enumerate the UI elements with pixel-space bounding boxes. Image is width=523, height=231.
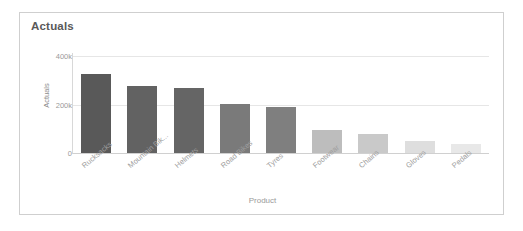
y-axis-ticks: 400k 200k 0 (28, 13, 72, 216)
y-tick-label-400k: 400k (36, 52, 72, 61)
plot-area: Actuals 400k 200k 0 RucksacksMountain Bi… (20, 13, 505, 216)
x-tick-label: Footwear (311, 143, 341, 170)
x-tick-label: Tyres (265, 151, 285, 170)
x-labels-layer: RucksacksMountain Bik...HelmetsRoad Bike… (73, 13, 489, 216)
x-axis-title: Product (20, 196, 505, 205)
x-tick-label: Chains (358, 148, 382, 170)
x-tick-label: Rucksacks (80, 140, 114, 170)
x-tick-label: Road Bikes (219, 138, 254, 170)
x-tick-label: Helmets (173, 145, 200, 170)
x-tick-label: Mountain Bik... (126, 131, 170, 170)
y-tick-label-0: 0 (36, 149, 72, 158)
y-tick-label-200k: 200k (36, 101, 72, 110)
chart-card: Actuals Actuals 400k 200k 0 RucksacksMou… (19, 12, 504, 215)
x-tick-label: Pedals (450, 148, 473, 170)
x-tick-label: Gloves (404, 148, 428, 170)
